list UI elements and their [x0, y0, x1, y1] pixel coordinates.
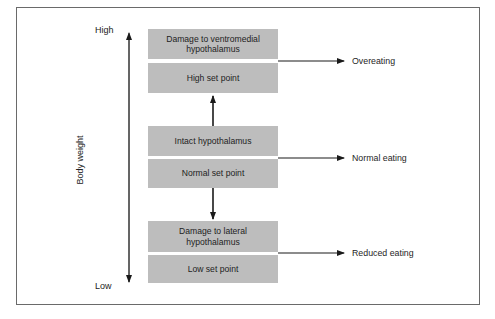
outcome-overeating: Overeating: [352, 56, 395, 66]
condition-box-intact: Intact hypothalamus: [148, 126, 278, 156]
axis-low-label: Low: [95, 281, 112, 291]
outcome-normal-eating: Normal eating: [352, 153, 407, 163]
set-point-box-high: High set point: [148, 63, 278, 93]
outcome-reduced-eating: Reduced eating: [352, 248, 414, 258]
condition-box-lateral-damage: Damage to lateral hypothalamus: [148, 221, 278, 252]
set-point-box-normal: Normal set point: [148, 159, 278, 188]
set-point-box-low: Low set point: [148, 255, 278, 283]
axis-high-label: High: [95, 25, 114, 35]
condition-box-ventromedial-damage: Damage to ventromedial hypothalamus: [148, 29, 278, 59]
axis-title: Body weight: [75, 135, 85, 184]
